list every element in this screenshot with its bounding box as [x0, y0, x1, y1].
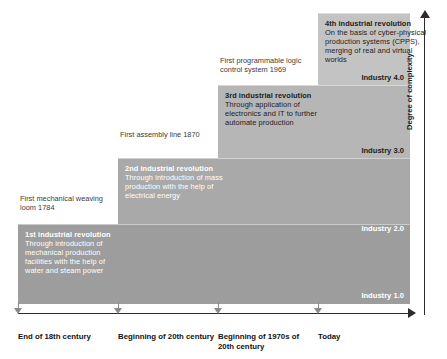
step-3-description: 3rd industrial revolution Through applic… — [225, 91, 325, 127]
x-axis-label-2: Beginning of 20th century — [118, 332, 216, 342]
step-1-description: 1st industrial revolution Through introd… — [25, 230, 125, 275]
callout-first-mechanical-weaving-loom: First mechanical weaving loom 1784 — [18, 192, 118, 224]
tick-marker-1-icon — [14, 302, 23, 314]
industry-label-2-0: Industry 2.0 — [318, 224, 404, 233]
step-3-body: Through application of electronics and I… — [225, 100, 317, 127]
industry-4-0-staircase-diagram: 1st industrial revolution Through introd… — [0, 0, 447, 359]
step-2-body: Through introduction of mass production … — [125, 173, 223, 200]
callout-first-programmable-logic-control-system: First programmable logic control system … — [218, 54, 318, 85]
industry-label-1-0: Industry 1.0 — [318, 291, 404, 300]
industry-label-3-0: Industry 3.0 — [318, 146, 404, 155]
step-2-heading: 2nd industrial revolution — [125, 164, 225, 173]
x-axis-arrowhead-icon — [408, 308, 416, 318]
industry-label-4-0: Industry 4.0 — [318, 73, 404, 82]
callout-first-assembly-line: First assembly line 1870 — [118, 128, 218, 158]
step-2-description: 2nd industrial revolution Through introd… — [125, 164, 225, 200]
y-axis-label: Degree of complexity — [405, 53, 414, 130]
tick-marker-3-icon — [214, 302, 223, 314]
step-1-body: Through introduction of mechanical produ… — [25, 239, 105, 275]
step-3-heading: 3rd industrial revolution — [225, 91, 325, 100]
tick-marker-4-icon — [314, 302, 323, 314]
step-4-heading: 4th industrial revolution — [325, 19, 427, 28]
tick-marker-2-icon — [114, 302, 123, 314]
x-axis-label-3: Beginning of 1970s of 20th century — [218, 332, 316, 351]
step-1-heading: 1st industrial revolution — [25, 230, 125, 239]
y-axis-arrowhead-icon — [420, 10, 430, 18]
y-axis-line — [424, 18, 425, 315]
x-axis-label-1: End of 18th century — [18, 332, 116, 342]
x-axis-label-4: Today — [318, 332, 416, 342]
